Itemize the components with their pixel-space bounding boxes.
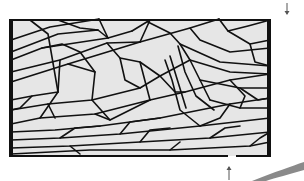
- fracture-diagram: [0, 0, 304, 181]
